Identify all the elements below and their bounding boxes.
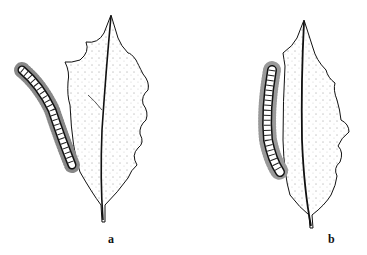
leaf-a [65, 15, 148, 222]
caterpillar-b [267, 70, 280, 172]
illustration-canvas [0, 0, 367, 255]
panel-label-a: a [108, 232, 114, 247]
caterpillar-a [22, 70, 72, 165]
leaf-b [283, 20, 349, 228]
panel-label-b: b [328, 232, 335, 247]
